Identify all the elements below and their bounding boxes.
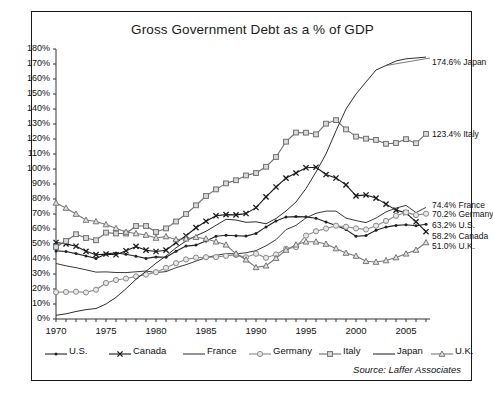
- data-point-marker: [263, 263, 269, 268]
- data-point-marker: [135, 255, 138, 258]
- data-point-marker: [294, 130, 299, 135]
- data-point-marker: [255, 232, 258, 235]
- data-point-marker: [403, 210, 408, 215]
- data-point-marker: [64, 239, 69, 244]
- data-point-marker: [145, 257, 148, 260]
- data-point-marker: [63, 289, 68, 294]
- legend-label-france: France: [207, 345, 237, 356]
- legend-label-japan: Japan: [397, 345, 423, 356]
- data-point-marker: [95, 257, 98, 260]
- data-point-marker: [245, 235, 248, 238]
- data-point-marker: [134, 224, 139, 229]
- data-point-marker: [364, 136, 369, 141]
- data-point-marker: [203, 255, 208, 260]
- data-point-marker: [323, 226, 328, 231]
- data-point-marker: [363, 227, 368, 232]
- data-point-marker: [83, 290, 88, 295]
- data-point-marker: [253, 251, 258, 256]
- y-axis-tick-label: 170%: [20, 58, 50, 68]
- data-point-marker: [234, 178, 239, 183]
- y-axis-tick-label: 50%: [20, 238, 50, 248]
- data-point-marker: [53, 290, 58, 295]
- data-point-marker: [423, 240, 429, 245]
- data-point-marker: [174, 219, 179, 224]
- data-point-marker: [224, 181, 229, 186]
- y-axis-tick-label: 60%: [20, 223, 50, 233]
- data-point-marker: [194, 203, 199, 208]
- y-axis-tick-label: 10%: [20, 298, 50, 308]
- data-point-marker: [73, 211, 79, 216]
- legend-swatch-germany: [248, 346, 272, 358]
- data-point-marker: [353, 226, 358, 231]
- data-point-marker: [285, 216, 288, 219]
- data-point-marker: [164, 226, 169, 231]
- series-line-france: [56, 205, 426, 272]
- legend-swatch-france: [182, 346, 206, 358]
- series-end-label: 174.6% Japan: [432, 57, 486, 67]
- screenshot-root: Gross Government Debt as a % of GDP 0%10…: [0, 0, 493, 394]
- data-point-marker: [214, 187, 219, 192]
- legend-label-us: U.S.: [69, 345, 87, 356]
- data-point-marker: [155, 255, 158, 258]
- data-point-marker: [284, 139, 289, 144]
- legend-swatch-uk: [430, 346, 454, 358]
- data-point-marker: [225, 234, 228, 237]
- data-point-marker: [84, 236, 89, 241]
- data-point-marker: [144, 224, 149, 229]
- y-axis-tick-label: 110%: [20, 148, 50, 158]
- data-point-marker: [315, 217, 318, 220]
- legend-label-canada: Canada: [133, 345, 166, 356]
- y-axis-tick-label: 150%: [20, 88, 50, 98]
- data-point-marker: [404, 137, 409, 142]
- data-point-marker: [75, 252, 78, 255]
- data-point-marker: [375, 229, 378, 232]
- y-axis-tick-label: 160%: [20, 73, 50, 83]
- x-axis-tick-label: 1970: [33, 325, 79, 336]
- legend-swatch-canada: [108, 346, 132, 358]
- data-point-marker: [374, 138, 379, 143]
- y-axis-tick-label: 120%: [20, 133, 50, 143]
- y-axis-tick-label: 0%: [20, 313, 50, 323]
- legend-swatch-italy: [318, 346, 342, 358]
- series-end-label: 63.2% U.S.: [432, 220, 475, 230]
- data-point-marker: [153, 270, 158, 275]
- data-point-marker: [204, 194, 209, 199]
- data-point-marker: [263, 255, 268, 260]
- x-axis-tick-label: 1975: [83, 325, 129, 336]
- data-point-marker: [195, 244, 198, 247]
- data-point-marker: [395, 224, 398, 227]
- series-line-us: [56, 217, 426, 259]
- legend-label-uk: U.K.: [455, 345, 473, 356]
- data-point-marker: [314, 132, 319, 137]
- series-end-label: 51.0% U.K.: [432, 241, 475, 251]
- data-point-marker: [85, 255, 88, 258]
- series-end-label: 70.2% Germany: [432, 209, 493, 219]
- data-point-marker: [425, 223, 428, 226]
- data-point-marker: [175, 250, 178, 253]
- data-point-marker: [343, 224, 348, 229]
- data-point-marker: [413, 212, 418, 217]
- data-point-marker: [333, 223, 338, 228]
- data-point-marker: [183, 257, 188, 262]
- chart-legend: U.S.CanadaFranceGermanyItalyJapanU.K.: [34, 343, 471, 361]
- data-point-marker: [104, 230, 109, 235]
- data-point-marker: [324, 121, 329, 126]
- data-point-marker: [244, 173, 249, 178]
- data-point-marker: [63, 205, 69, 210]
- data-point-marker: [163, 265, 168, 270]
- data-point-marker: [74, 232, 79, 237]
- data-point-marker: [123, 276, 128, 281]
- series-line-uk: [56, 203, 426, 268]
- plot-area: 0%10%20%30%40%50%60%70%80%90%100%110%120…: [32, 12, 473, 382]
- data-point-marker: [223, 253, 228, 258]
- data-point-marker: [215, 235, 218, 238]
- series-end-label: 123.4% Italy: [432, 129, 479, 139]
- data-point-marker: [334, 118, 339, 123]
- data-point-marker: [394, 141, 399, 146]
- data-point-marker: [114, 231, 119, 236]
- data-point-marker: [65, 250, 68, 253]
- legend-swatch-us: [44, 346, 68, 358]
- data-point-marker: [383, 218, 388, 223]
- data-point-marker: [304, 130, 309, 135]
- legend-label-italy: Italy: [343, 345, 360, 356]
